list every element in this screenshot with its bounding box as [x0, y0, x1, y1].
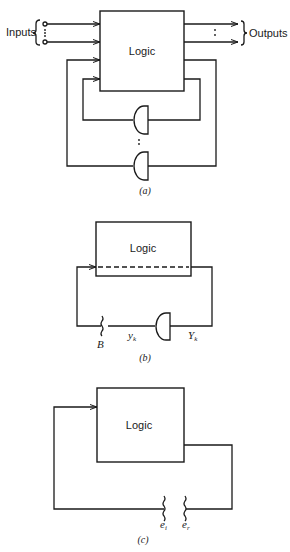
caption-b: (b) [139, 352, 151, 364]
delay-element-icon [134, 152, 148, 180]
ellipsis-dot [138, 139, 140, 141]
input-terminal-icon [43, 40, 47, 44]
break-label-b: B [97, 338, 104, 350]
input-terminal-icon [43, 22, 47, 26]
logic-label-b: Logic [130, 242, 157, 254]
gate-input-label: yk [127, 329, 137, 343]
delay-element-icon [156, 313, 170, 340]
gate-output-label: Yk [188, 329, 198, 343]
caption-a: (a) [139, 185, 151, 197]
left-break-label: ei [160, 518, 167, 532]
loop-right-c [184, 445, 232, 509]
outputs-label: Outputs [249, 27, 288, 39]
right-break-label: er [182, 518, 190, 532]
diagram-canvas: Logic Inputs Outputs (a) Logic [0, 0, 290, 552]
ellipsis-dot [44, 32, 46, 34]
inputs-label: Inputs [6, 26, 36, 38]
ellipsis-dot [44, 29, 46, 31]
wavy-break-icon [101, 316, 103, 336]
caption-c: (c) [137, 534, 149, 546]
figure-b: Logic B yk Yk (b) [77, 222, 212, 364]
logic-label-a: Logic [129, 45, 156, 57]
ellipsis-dot [214, 29, 216, 31]
inputs-brace-icon [33, 20, 40, 45]
outputs-brace-icon [241, 21, 247, 45]
ellipsis-dot [44, 35, 46, 37]
figure-c: Logic ei er (c) [54, 388, 232, 546]
ellipsis-dot [138, 143, 140, 145]
figure-a: Logic Inputs Outputs (a) [6, 11, 288, 197]
logic-label-c: Logic [126, 419, 153, 431]
delay-element-icon [134, 106, 148, 134]
ellipsis-dot [214, 34, 216, 36]
